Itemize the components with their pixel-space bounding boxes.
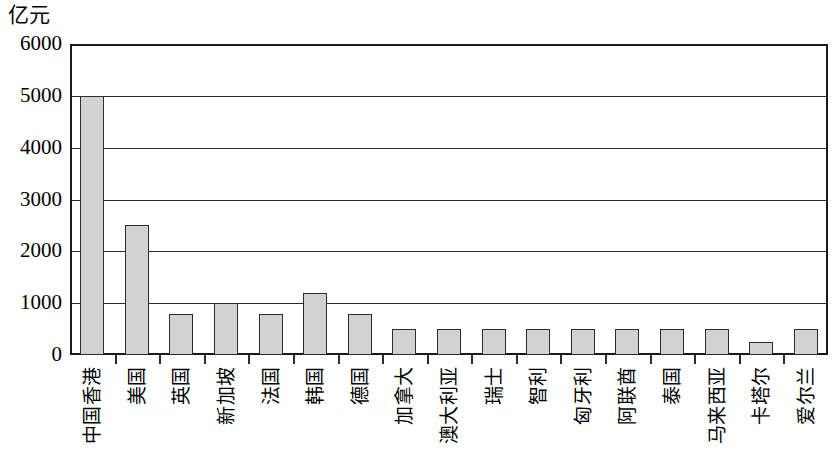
gridline — [72, 148, 826, 149]
x-axis-category-label: 韩国 — [305, 366, 326, 405]
x-axis-tick — [694, 355, 696, 364]
x-axis-category-label: 瑞士 — [483, 366, 504, 405]
x-axis-category-label: 德国 — [349, 366, 370, 405]
x-axis-label-slot: 澳大利亚 — [427, 366, 472, 464]
gridline — [72, 96, 826, 97]
y-axis-tick-label: 3000 — [0, 189, 62, 210]
x-axis-label-slot: 马来西亚 — [694, 366, 739, 464]
x-axis-category-label: 新加坡 — [216, 366, 237, 425]
x-axis-tick — [650, 355, 652, 364]
y-axis-unit-label: 亿元 — [8, 2, 50, 28]
x-axis-label-slot: 法国 — [248, 366, 293, 464]
y-axis-tick-label: 2000 — [0, 240, 62, 261]
x-axis-category-label: 英国 — [171, 366, 192, 405]
x-axis-tick — [382, 355, 384, 364]
x-axis-label-slot: 德国 — [338, 366, 383, 464]
x-axis-tick — [115, 355, 117, 364]
x-axis-tick — [204, 355, 206, 364]
x-axis-label-slot: 爱尔兰 — [783, 366, 828, 464]
x-axis-tick — [516, 355, 518, 364]
x-axis-label-slot: 智利 — [516, 366, 561, 464]
x-axis-tick — [739, 355, 741, 364]
x-axis-label-slot: 加拿大 — [382, 366, 427, 464]
x-axis-tick — [560, 355, 562, 364]
x-axis-tick — [159, 355, 161, 364]
x-axis-tick — [783, 355, 785, 364]
bar-chart: 亿元 6000500040003000200010000 中国香港美国英国新加坡… — [0, 0, 835, 464]
x-axis-label-slot: 卡塔尔 — [739, 366, 784, 464]
x-axis-label-slot: 泰国 — [650, 366, 695, 464]
x-axis-tick — [471, 355, 473, 364]
x-axis-label-slot: 匈牙利 — [560, 366, 605, 464]
x-axis-category-label: 阿联酋 — [617, 366, 638, 425]
y-axis-tick-label: 4000 — [0, 137, 62, 158]
x-axis-label-slot: 韩国 — [293, 366, 338, 464]
x-axis-tick — [293, 355, 295, 364]
x-axis-category-labels: 中国香港美国英国新加坡法国韩国德国加拿大澳大利亚瑞士智利匈牙利阿联酋泰国马来西亚… — [70, 366, 828, 464]
y-axis-tick-label: 6000 — [0, 33, 62, 54]
x-axis-category-label: 智利 — [528, 366, 549, 405]
x-axis-label-slot: 瑞士 — [471, 366, 516, 464]
gridline — [72, 303, 826, 304]
x-axis-category-label: 中国香港 — [82, 366, 103, 444]
y-axis-tick-label: 0 — [0, 344, 62, 365]
x-axis-category-label: 马来西亚 — [706, 366, 727, 444]
gridline — [72, 251, 826, 252]
x-axis-tick — [605, 355, 607, 364]
x-axis-label-slot: 新加坡 — [204, 366, 249, 464]
x-axis-label-slot: 美国 — [115, 366, 160, 464]
x-axis-category-label: 泰国 — [661, 366, 682, 405]
y-axis-tick-labels: 6000500040003000200010000 — [0, 44, 62, 355]
x-axis-category-label: 法国 — [260, 366, 281, 405]
x-axis-tick — [427, 355, 429, 364]
x-axis-category-label: 匈牙利 — [572, 366, 593, 425]
gridline — [72, 200, 826, 201]
y-axis-tick-label: 1000 — [0, 292, 62, 313]
y-axis-tick-label: 5000 — [0, 85, 62, 106]
x-axis-category-label: 卡塔尔 — [751, 366, 772, 425]
x-axis-category-label: 美国 — [126, 366, 147, 405]
plot-area — [70, 44, 828, 355]
x-axis-category-label: 爱尔兰 — [795, 366, 816, 425]
x-axis-label-slot: 中国香港 — [70, 366, 115, 464]
x-axis-label-slot: 英国 — [159, 366, 204, 464]
x-axis-category-label: 加拿大 — [394, 366, 415, 425]
x-axis-label-slot: 阿联酋 — [605, 366, 650, 464]
x-axis-tick — [338, 355, 340, 364]
x-axis-tick — [248, 355, 250, 364]
x-axis-category-label: 澳大利亚 — [438, 366, 459, 444]
